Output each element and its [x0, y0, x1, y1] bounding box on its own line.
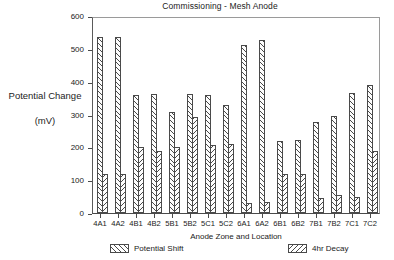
x-axis-tick-mark [334, 214, 335, 218]
x-axis-tick-mark [262, 214, 263, 218]
y-axis-tick-label: 0 [54, 209, 84, 218]
x-axis-tick-mark [280, 214, 281, 218]
hatch-forward-swatch-icon [110, 244, 129, 253]
x-axis-label: Anode Zone and Location [92, 232, 380, 241]
plot-area [92, 17, 380, 214]
legend-label-potential-shift: Potential Shift [134, 244, 183, 253]
bar-potential-shift [367, 85, 373, 213]
bar-potential-shift [241, 45, 247, 213]
y-axis-tick-label: 200 [54, 143, 84, 152]
x-axis-tick-mark [136, 214, 137, 218]
x-axis-tick-mark [154, 214, 155, 218]
chart-legend: Potential Shift 4hr Decay [92, 244, 384, 258]
chart-container: Commissioning - Mesh Anode Potential Cha… [0, 0, 394, 260]
x-axis-tick-label: 5B1 [163, 219, 181, 228]
x-axis-tick-mark [298, 214, 299, 218]
x-axis-tick-label: 5B2 [181, 219, 199, 228]
bar-potential-shift [295, 140, 301, 213]
bar-potential-shift [223, 105, 229, 213]
y-axis-tick-label: 400 [54, 78, 84, 87]
x-axis-tick-label: 7C1 [343, 219, 361, 228]
x-axis-tick-mark [118, 214, 119, 218]
bar-potential-shift [187, 94, 193, 213]
x-axis-tick-mark [226, 214, 227, 218]
x-axis-tick-mark [208, 214, 209, 218]
y-axis-label-group: Potential Change (mV) [2, 90, 88, 126]
y-axis-tick-label: 500 [54, 45, 84, 54]
bar-potential-shift [313, 122, 319, 213]
bar-potential-shift [349, 93, 355, 213]
x-axis-tick-label: 5C2 [217, 219, 235, 228]
bars-layer [93, 18, 379, 213]
bar-potential-shift [277, 141, 283, 213]
bar-potential-shift [205, 95, 211, 213]
x-axis-tick-label: 7C2 [361, 219, 379, 228]
y-axis-tick-label: 300 [54, 111, 84, 120]
x-axis-tick-mark [190, 214, 191, 218]
x-axis-tick-label: 4B1 [127, 219, 145, 228]
x-axis-tick-mark [370, 214, 371, 218]
y-axis-label: Potential Change [2, 90, 88, 101]
x-axis-tick-mark [352, 214, 353, 218]
x-axis-tick-label: 4B2 [145, 219, 163, 228]
bar-potential-shift [331, 116, 337, 213]
x-axis-tick-label: 5C1 [199, 219, 217, 228]
legend-label-4hr-decay: 4hr Decay [312, 244, 348, 253]
bar-potential-shift [259, 40, 265, 213]
legend-item-4hr-decay: 4hr Decay [288, 244, 348, 253]
x-axis-tick-label: 7B2 [325, 219, 343, 228]
bar-potential-shift [97, 37, 103, 213]
x-axis-tick-label: 6A2 [253, 219, 271, 228]
bar-potential-shift [133, 95, 139, 213]
y-axis-tick-mark [88, 214, 92, 215]
hatch-backward-swatch-icon [288, 244, 307, 253]
x-axis-tick-label: 6B1 [271, 219, 289, 228]
legend-item-potential-shift: Potential Shift [110, 244, 183, 253]
x-axis-tick-label: 7B1 [307, 219, 325, 228]
x-axis-tick-label: 4A1 [91, 219, 109, 228]
bar-potential-shift [115, 37, 121, 213]
bar-potential-shift [169, 112, 175, 213]
bar-potential-shift [151, 94, 157, 213]
y-axis-tick-label: 100 [54, 176, 84, 185]
x-axis-tick-label: 4A2 [109, 219, 127, 228]
x-axis-tick-mark [172, 214, 173, 218]
x-axis-tick-mark [316, 214, 317, 218]
x-axis-tick-label: 6B2 [289, 219, 307, 228]
x-axis-tick-mark [244, 214, 245, 218]
chart-title: Commissioning - Mesh Anode [110, 1, 330, 11]
x-axis-tick-mark [100, 214, 101, 218]
x-axis-tick-label: 6A1 [235, 219, 253, 228]
y-axis-tick-label: 600 [54, 12, 84, 21]
